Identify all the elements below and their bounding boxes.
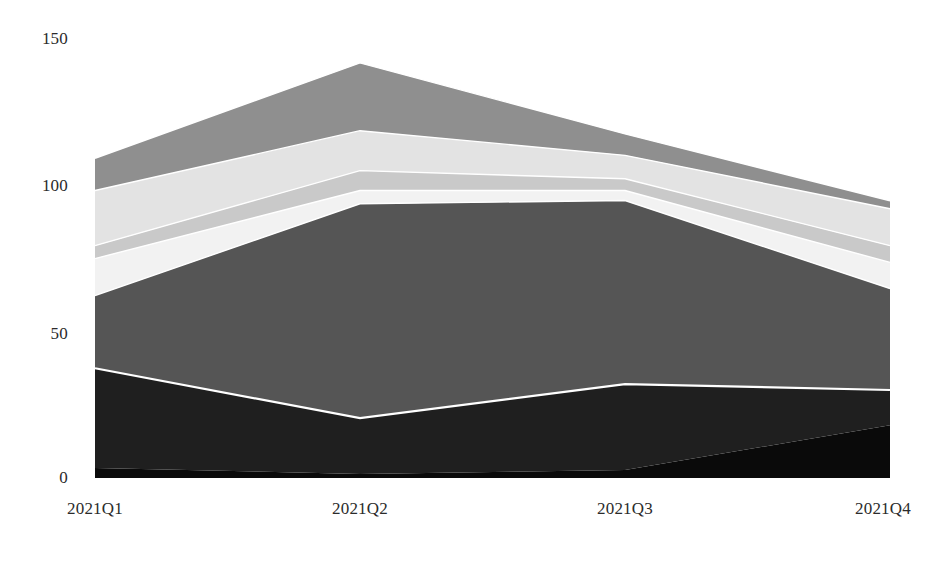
plot-area xyxy=(0,0,938,567)
stacked-area-chart: 150 100 50 0 2021Q1 2021Q2 2021Q3 2021Q4 xyxy=(0,0,938,567)
area-series-group xyxy=(95,63,890,478)
